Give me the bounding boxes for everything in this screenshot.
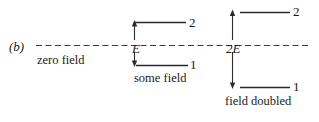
field-doubled-gap-arrowhead-up [230,10,235,17]
panel-caption: (b) [9,40,24,53]
level-number-some-field-lower: 1 [190,58,197,71]
group-label-some-field: some field [134,72,186,85]
level-number-some-field-upper: 2 [189,16,196,29]
gap-label-some-field: E [132,42,140,55]
energy-level-splitting-figure: (b) zero field some field field doubled … [0,0,319,122]
gap-label-field-doubled: 2E [226,42,240,55]
level-number-field-doubled-lower: 1 [293,80,300,93]
group-label-field-doubled: field doubled [225,95,291,108]
level-number-field-doubled-upper: 2 [293,5,300,18]
field-doubled-gap-arrowhead-down [230,83,235,90]
group-label-zero-field: zero field [37,54,85,67]
